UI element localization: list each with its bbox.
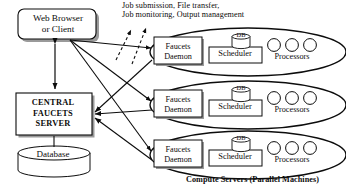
scheduler-db-label-1: DB [232,32,250,39]
scheduler-label-3: Scheduler [209,153,261,162]
processor-circles-2 [268,92,317,105]
processor-circles-3 [268,142,317,155]
compute-to-server-links [95,60,152,160]
central-server-label: CENTRAL FAUCETS SERVER [17,98,89,130]
processors-label-1: Processors [265,53,319,62]
faucets-daemon-label-1: Faucets Daemon [154,42,202,62]
scheduler-label-1: Scheduler [209,50,261,59]
processors-label-2: Processors [265,106,319,115]
scheduler-db-label-3: DB [232,135,250,142]
database-label: Database [22,150,84,159]
processor-circles-1 [268,39,317,52]
top-annotation-label: Job submission, File transfer, Job monit… [122,2,244,19]
bottom-caption-label: Compute Servers (Parallel Machines) [186,176,319,185]
client-box-label: Web Browser or Client [22,13,94,35]
faucets-daemon-label-3: Faucets Daemon [154,145,202,165]
scheduler-db-label-2: DB [232,85,250,92]
faucets-daemon-label-2: Faucets Daemon [154,95,202,115]
processors-label-3: Processors [265,156,319,165]
diagram-canvas: Job submission, File transfer, Job monit… [0,0,346,194]
scheduler-label-2: Scheduler [209,103,261,112]
